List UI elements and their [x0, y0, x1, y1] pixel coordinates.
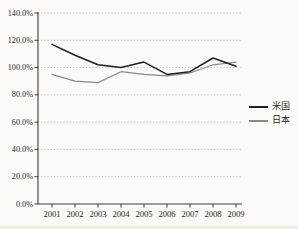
x-tick-label: 2004 [112, 209, 130, 219]
y-tick-label: 60.0% [12, 118, 33, 127]
x-tick-label: 2009 [227, 209, 244, 219]
x-tick-label: 2007 [181, 209, 199, 219]
x-tick-label: 2008 [204, 209, 221, 219]
y-tick-label: 40.0% [12, 145, 33, 154]
x-tick-label: 2005 [135, 209, 152, 219]
japan-line-sample [249, 120, 268, 122]
japan-legend-label: 日本 [272, 116, 290, 125]
us-series-line [52, 44, 236, 74]
legend-item-japan: 日本 [249, 116, 290, 125]
y-tick-label: 120.0% [8, 36, 33, 45]
y-tick-label: 0.0% [16, 200, 33, 209]
y-tick-label: 20.0% [12, 172, 33, 181]
y-tick-label: 100.0% [8, 63, 33, 72]
legend: 米国 日本 [249, 102, 290, 125]
y-tick-label: 140.0% [8, 9, 33, 18]
scan-artifact [0, 226, 298, 229]
line-chart-figure: 0.0%20.0%40.0%60.0%80.0%100.0%120.0%140.… [0, 0, 298, 229]
x-tick-label: 2002 [66, 209, 83, 219]
x-tick-label: 2006 [158, 209, 176, 219]
y-tick-label: 80.0% [12, 90, 33, 99]
x-tick-label: 2001 [43, 209, 60, 219]
legend-item-us: 米国 [249, 102, 290, 111]
japan-series-line [52, 62, 236, 83]
us-line-sample [249, 106, 268, 108]
us-legend-label: 米国 [272, 102, 290, 111]
x-tick-label: 2003 [89, 209, 106, 219]
